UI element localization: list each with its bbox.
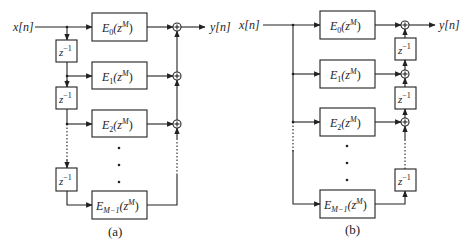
ellipsis-dot	[118, 147, 121, 150]
filter-label: E0(zM)	[329, 18, 361, 35]
adder-0	[401, 21, 409, 29]
adder-1	[401, 70, 409, 78]
diagram-b: x[n] E0(zM) E1(zM) E2(zM) EM−1(zM) z−1	[238, 11, 460, 237]
output-label-a: y[n]	[209, 20, 231, 34]
adder-2	[401, 118, 409, 126]
ellipsis-dot	[346, 145, 349, 148]
ellipsis-dot	[346, 162, 349, 165]
caption-b: (b)	[345, 222, 360, 237]
ellipsis-dot	[346, 179, 349, 182]
caption-a: (a)	[108, 224, 122, 239]
signal-line	[147, 175, 177, 205]
ellipsis-dot	[118, 181, 121, 184]
filter-label: E0(zM)	[101, 20, 133, 37]
signal-line	[67, 191, 92, 205]
input-label-b: x[n]	[238, 18, 260, 32]
filter-label: E2(zM)	[101, 117, 133, 134]
filter-label: E1(zM)	[101, 69, 133, 86]
adder-2	[173, 120, 181, 128]
adder-1	[173, 72, 181, 80]
diagram-a: x[n] z−1 z−1 z−1 E0(zM) E1(zM)	[12, 13, 231, 239]
adder-0	[173, 23, 181, 31]
filter-label: E2(zM)	[329, 115, 361, 132]
signal-line	[293, 150, 320, 204]
output-label-b: y[n]	[438, 18, 460, 32]
signal-line	[375, 191, 405, 204]
filter-label: E1(zM)	[329, 67, 361, 84]
junction-dot	[292, 24, 295, 27]
ellipsis-dot	[118, 164, 121, 167]
input-label-a: x[n]	[12, 20, 34, 34]
polyphase-diagrams: x[n] z−1 z−1 z−1 E0(zM) E1(zM)	[0, 0, 466, 249]
